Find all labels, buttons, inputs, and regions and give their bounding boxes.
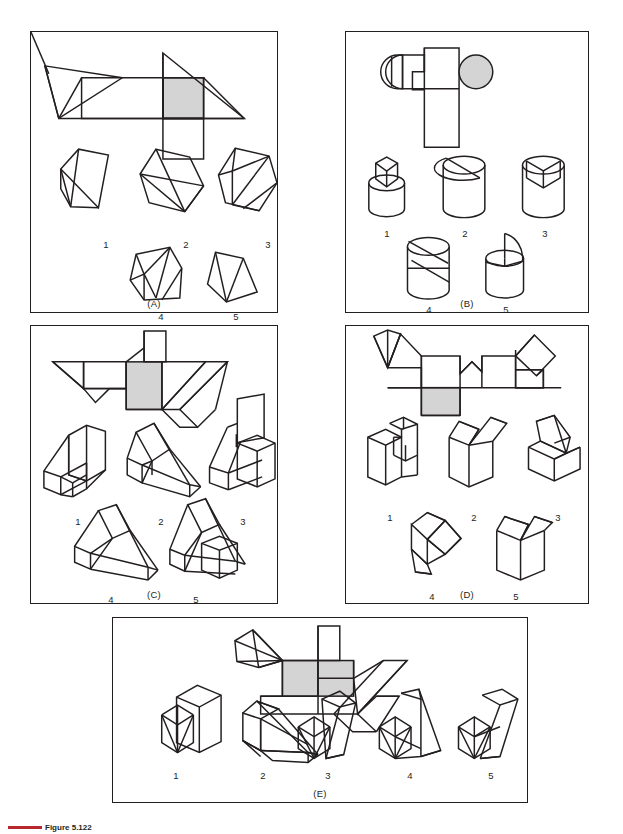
panel-d-drawing [346,326,588,603]
panel-d-option-number-3: 3 [555,512,560,523]
panel-c-option-3 [210,394,275,490]
panel-d-label: (D) [346,589,588,600]
panel-a-option-number-3: 3 [265,239,270,250]
panel-b-option-4 [407,237,449,298]
panel-d-option-3 [528,415,580,480]
panel-a: 1 2 3 4 5 (A) [30,31,278,313]
figure-page: 1 2 3 4 5 (A) [0,0,623,834]
panel-e-pattern [235,626,407,732]
panel-b: 1 2 3 4 5 (B) [345,31,589,313]
panel-b-option-number-1: 1 [384,228,389,239]
panel-c-option-4 [75,505,158,580]
panel-e-option-3 [298,691,355,758]
panel-c-drawing [31,326,277,603]
panel-b-option-2 [434,156,484,217]
panel-b-label: (B) [346,298,588,309]
panel-c-pattern [53,331,228,427]
panel-c-option-number-2: 2 [158,516,163,527]
caption-rule [8,826,42,829]
panel-a-option-number-4: 4 [158,311,163,322]
panel-e-option-number-3: 3 [325,770,330,781]
figure-caption: Figure 5.122 [8,823,92,834]
panel-e-option-5 [458,689,517,758]
panel-e-option-1 [162,685,221,752]
panel-b-option-number-3: 3 [542,228,547,239]
panel-c-option-1 [44,425,106,496]
panel-b-option-1 [369,157,405,217]
panel-e-option-number-4: 4 [407,770,412,781]
panel-b-option-number-2: 2 [462,228,467,239]
panel-a-pattern [45,53,244,159]
panel-a-drawing [31,32,277,312]
shaded-face [421,388,460,416]
panel-d-option-4 [411,513,461,574]
caption-prefix: Figure [45,823,69,832]
panel-a-option-4 [130,247,182,300]
panel-e-option-number-1: 1 [173,770,178,781]
panel-c-option-number-1: 1 [75,516,80,527]
panel-a-option-number-2: 2 [183,239,188,250]
panel-e: 1 2 3 4 5 (E) [112,617,528,803]
shaded-face-1 [282,661,318,697]
panel-d-pattern [374,330,561,415]
panel-e-option-number-2: 2 [260,770,265,781]
panel-a-label: (A) [31,298,277,309]
panel-e-option-number-5: 5 [488,770,493,781]
panel-d: 1 2 3 4 5 (D) [345,325,589,604]
panel-c: 1 2 3 4 5 (C) [30,325,278,604]
panel-b-option-5 [486,233,524,297]
caption-number: 5.122 [72,823,92,832]
panel-c-option-5 [170,499,245,578]
panel-a-option-5 [208,252,258,302]
panel-c-option-number-3: 3 [240,516,245,527]
panel-a-option-number-5: 5 [233,311,238,322]
panel-a-option-3 [218,148,277,210]
panel-c-label: (C) [31,589,277,600]
panel-b-option-3 [523,156,565,217]
panel-e-label: (E) [113,788,527,799]
shaded-face [163,78,204,119]
panel-a-option-number-1: 1 [103,239,108,250]
panel-b-drawing [346,32,588,312]
panel-a-option-1 [31,32,108,208]
shaded-face [126,362,162,410]
panel-d-option-5 [497,517,553,580]
panel-d-option-1 [368,417,418,484]
shaded-face [459,55,493,89]
panel-d-option-2 [449,417,507,486]
panel-c-option-2 [127,423,200,496]
panel-d-option-number-1: 1 [387,512,392,523]
panel-e-option-4 [379,689,440,758]
panel-b-pattern [381,48,493,147]
panel-d-option-number-2: 2 [471,512,476,523]
